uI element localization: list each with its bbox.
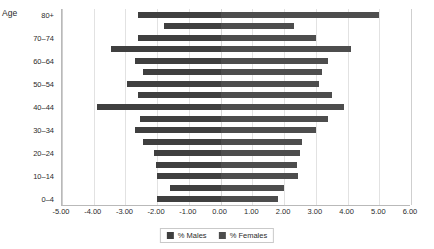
bar-male[interactable] [164,23,221,29]
bar-female[interactable] [221,81,319,87]
x-tick-label: 1.00 [244,207,259,216]
y-tick-label: 40–44 [33,103,54,112]
bar-female[interactable] [221,46,351,52]
bar-rows [62,9,410,205]
bar-female[interactable] [221,185,284,191]
plot-area [61,9,410,205]
bar-male[interactable] [143,69,221,75]
legend-swatch-males [167,232,174,239]
x-tick-label: -2.00 [148,207,165,216]
chart-legend: % Males % Females [160,228,274,243]
bar-male[interactable] [143,139,221,145]
y-tick-label: 50–54 [33,79,54,88]
bar-male[interactable] [157,196,220,202]
y-tick-label: 60–64 [33,56,54,65]
x-tick-label: 0.00 [212,207,227,216]
gridline [411,9,412,205]
bar-female[interactable] [221,116,329,122]
x-tick-label: 4.00 [339,207,354,216]
y-tick-label: 70–74 [33,33,54,42]
bar-male[interactable] [138,92,220,98]
bar-male[interactable] [111,46,220,52]
bar-female[interactable] [221,196,278,202]
bar-female[interactable] [221,150,300,156]
y-tick-label: 0–4 [41,195,54,204]
y-tick-label: 10–14 [33,172,54,181]
bar-female[interactable] [221,69,323,75]
bar-female[interactable] [221,23,294,29]
bar-female[interactable] [221,162,297,168]
x-tick-label: -1.00 [179,207,196,216]
bar-male[interactable] [97,104,221,110]
bar-male[interactable] [138,35,220,41]
legend-label-males: % Males [178,231,207,240]
y-axis-tick-labels: 0–410–1420–2430–3440–4450–5460–6470–7480… [0,9,58,205]
x-tick-label: 6.00 [403,207,418,216]
legend-item-males[interactable]: % Males [167,231,207,240]
x-tick-label: -3.00 [116,207,133,216]
bar-female[interactable] [221,35,316,41]
bar-female[interactable] [221,92,332,98]
bar-male[interactable] [140,116,221,122]
x-axis-tick-labels: -5.00-4.00-3.00-2.00-1.000.001.002.003.0… [0,207,434,221]
bar-male[interactable] [157,173,220,179]
x-axis-line [61,205,410,206]
x-tick-label: 3.00 [308,207,323,216]
bar-male[interactable] [135,127,221,133]
x-tick-label: -5.00 [52,207,69,216]
x-tick-label: 5.00 [371,207,386,216]
bar-male[interactable] [135,58,221,64]
bar-female[interactable] [221,173,299,179]
bar-male[interactable] [156,162,221,168]
y-tick-label: 20–24 [33,149,54,158]
legend-swatch-females [219,232,226,239]
bar-male[interactable] [170,185,221,191]
bar-male[interactable] [154,150,221,156]
bar-male[interactable] [127,81,221,87]
bar-female[interactable] [221,58,329,64]
bar-male[interactable] [138,12,220,18]
bar-female[interactable] [221,104,345,110]
x-tick-label: 2.00 [276,207,291,216]
x-tick-label: -4.00 [84,207,101,216]
bar-female[interactable] [221,12,380,18]
bar-female[interactable] [221,127,316,133]
legend-label-females: % Females [230,231,268,240]
y-tick-label: 80+ [41,10,54,19]
legend-item-females[interactable]: % Females [219,231,268,240]
y-tick-label: 30–34 [33,126,54,135]
population-pyramid-chart: Age 0–410–1420–2430–3440–4450–5460–6470–… [0,0,434,249]
bar-female[interactable] [221,139,302,145]
